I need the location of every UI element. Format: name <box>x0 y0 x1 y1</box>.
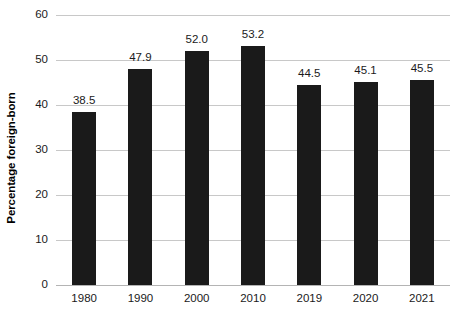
x-axis-tick-label: 1980 <box>57 293 111 305</box>
bar-value-label: 44.5 <box>282 68 336 80</box>
bar-value-label: 38.5 <box>57 95 111 107</box>
x-axis-tick-label: 2019 <box>282 293 336 305</box>
bar-value-label: 53.2 <box>226 29 280 41</box>
x-axis-tick-label: 2000 <box>170 293 224 305</box>
x-axis-tick-label: 2021 <box>395 293 449 305</box>
x-axis-line <box>56 285 450 286</box>
bar-chart: Percentage foreign-born 0102030405060 38… <box>0 0 458 316</box>
bar-value-label: 47.9 <box>113 52 167 64</box>
bar-value-label: 45.1 <box>339 65 393 77</box>
bar[interactable] <box>128 69 152 285</box>
bar-value-label: 45.5 <box>395 63 449 75</box>
x-axis-tick-label: 2010 <box>226 293 280 305</box>
bar[interactable] <box>72 112 96 285</box>
x-axis-tick-label: 1990 <box>113 293 167 305</box>
bar[interactable] <box>185 51 209 285</box>
bar[interactable] <box>297 85 321 285</box>
bar[interactable] <box>354 82 378 285</box>
plot-area: 38.547.952.053.244.545.145.5 <box>56 15 450 285</box>
bar[interactable] <box>241 46 265 285</box>
gridline <box>56 15 450 16</box>
bar-value-label: 52.0 <box>170 34 224 46</box>
y-axis-title: Percentage foreign-born <box>0 0 22 316</box>
x-axis-tick-label: 2020 <box>339 293 393 305</box>
bar[interactable] <box>410 80 434 285</box>
